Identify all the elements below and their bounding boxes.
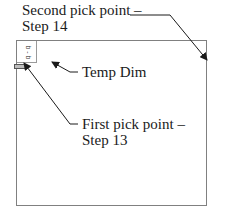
temp-dim-leader-arrow-icon (52, 62, 78, 72)
leader-lines (0, 0, 225, 220)
second-pick-leader-arrow-icon (130, 15, 207, 60)
